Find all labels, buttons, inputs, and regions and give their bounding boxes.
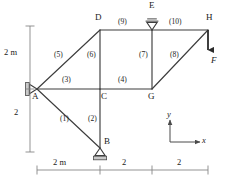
member-label-9: (9): [118, 18, 127, 26]
node-label-b: B: [104, 137, 110, 146]
member-label-8: (8): [170, 51, 179, 59]
member-label-10: (10): [169, 18, 182, 26]
support-roller-b: [93, 148, 106, 160]
axis-label-y: y: [167, 110, 171, 119]
dimension-label-vertical-2: 2: [14, 108, 18, 117]
dimension-label-horizontal-3: 2: [177, 158, 181, 167]
member-label-3: (3): [62, 76, 71, 84]
node-label-e: E: [149, 1, 155, 10]
vertical-dimension-line: [26, 26, 35, 152]
member-label-7: (7): [139, 51, 148, 59]
member-label-1: (1): [60, 115, 69, 123]
axis-label-x: x: [202, 136, 206, 145]
node-label-h: H: [206, 13, 213, 22]
force-label-f: F: [211, 56, 217, 65]
node-label-a: A: [32, 92, 39, 101]
node-label-c: C: [101, 92, 107, 101]
truss-diagram: A B C D E G H (1) (2) (3) (4) (5) (6) (7…: [0, 0, 231, 181]
support-roller-e: [146, 19, 159, 30]
node-label-d: D: [95, 13, 102, 22]
coordinate-axes: [170, 120, 200, 142]
member-label-4: (4): [118, 76, 127, 84]
member-label-2: (2): [88, 115, 97, 123]
member-label-5: (5): [54, 51, 63, 59]
dimension-label-horizontal-1: 2 m: [53, 158, 66, 167]
member-label-6: (6): [87, 51, 96, 59]
member-8: [152, 30, 208, 89]
dimension-label-vertical-1: 2 m: [4, 48, 17, 57]
dimension-label-horizontal-2: 2: [122, 158, 126, 167]
node-label-g: G: [148, 92, 155, 101]
